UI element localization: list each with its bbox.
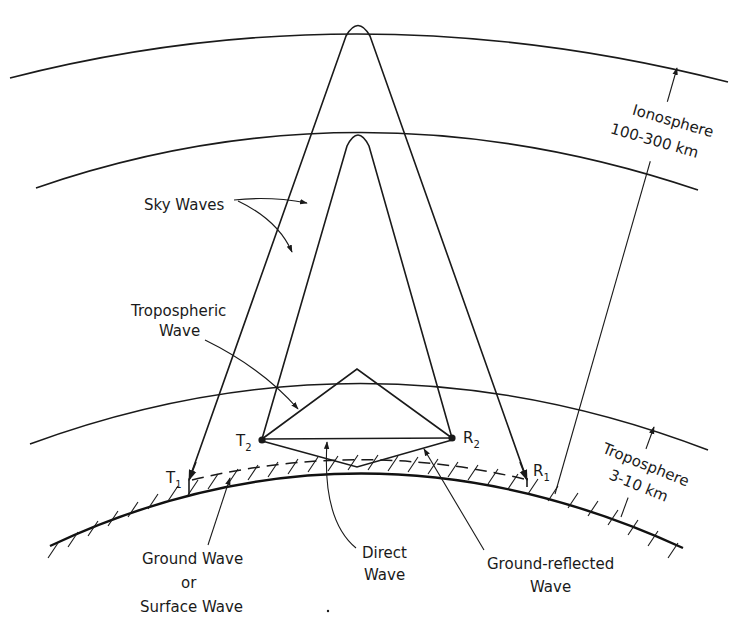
r2-label: R2	[463, 429, 480, 450]
r2-station	[448, 434, 455, 441]
direct-wave-label-line2: Wave	[364, 566, 405, 584]
t2-label: T2	[235, 432, 252, 453]
sky-waves-label: Sky Waves	[144, 196, 224, 214]
earth-surface	[48, 455, 683, 558]
ground-wave-label-line1: Ground Wave	[142, 550, 243, 568]
propagation-diagram: T1 T2 R2 R1 Sky Waves Tropospheric Wave …	[0, 0, 744, 634]
direct-wave-path	[262, 438, 452, 439]
ground-wave-label-line3: Surface Wave	[140, 598, 243, 616]
ground-reflected-wave-label-line2: Wave	[530, 578, 571, 596]
ground-wave-label-line2: or	[181, 574, 197, 592]
tropospheric-wave-label-line2: Wave	[159, 322, 200, 340]
ionosphere-upper-boundary	[10, 34, 728, 82]
direct-wave-label-line1: Direct	[362, 544, 407, 562]
r1-label: R1	[533, 462, 550, 483]
ground-hatching	[48, 455, 678, 558]
t2-station	[258, 436, 265, 443]
direct-wave-leader	[326, 442, 356, 548]
tropospheric-wave-leader	[205, 340, 298, 409]
t1-label: T1	[165, 469, 182, 490]
sky-waves-leader-lower	[238, 201, 292, 252]
scan-dot	[327, 610, 329, 612]
sky-wave-r1-arrow	[520, 462, 527, 480]
sky-wave-inner-path	[262, 135, 452, 439]
tropospheric-wave-path	[262, 369, 452, 439]
sky-waves-leader-upper	[234, 199, 307, 203]
ground-reflected-wave-leader	[424, 449, 484, 550]
sky-wave-t1-arrow	[189, 462, 196, 480]
ground-reflected-wave-label-line1: Ground-reflected	[487, 555, 614, 573]
sky-wave-outer-path	[189, 26, 527, 481]
tropospheric-wave-label-line1: Tropospheric	[130, 302, 226, 320]
